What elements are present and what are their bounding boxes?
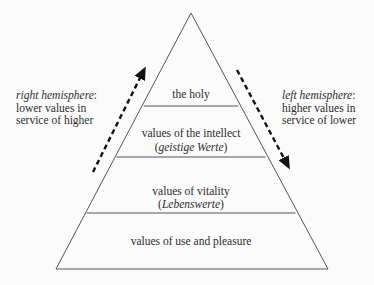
right-hemisphere-term: right hemisphere: [16, 89, 94, 101]
level-intellect-sublabel: (geistige Werte): [142, 141, 241, 154]
right-annotation-line3: service of lower: [282, 114, 356, 127]
paren-close: ): [220, 198, 224, 210]
german-term: Lebenswerte: [162, 198, 220, 210]
level-holy: the holy: [172, 88, 209, 101]
left-hemisphere-term: left hemisphere: [282, 89, 352, 101]
downward-dashed-arrow: [237, 70, 287, 164]
paren-close: ): [224, 141, 228, 153]
level-holy-label: the holy: [172, 88, 209, 100]
left-annotation-line3: service of higher: [16, 114, 97, 127]
left-annotation-line2: lower values in: [16, 102, 97, 115]
level-vitality-sublabel: (Lebenswerte): [152, 198, 229, 211]
level-use-pleasure-label: values of use and pleasure: [131, 235, 252, 247]
right-annotation: left hemisphere: higher values in servic…: [282, 89, 356, 127]
colon: :: [352, 89, 355, 101]
left-annotation-title: right hemisphere:: [16, 89, 97, 102]
level-intellect: values of the intellect (geistige Werte): [142, 127, 241, 154]
left-annotation: right hemisphere: lower values in servic…: [16, 89, 97, 127]
german-term: geistige Werte: [158, 141, 223, 153]
colon: :: [94, 89, 97, 101]
level-use-pleasure: values of use and pleasure: [131, 235, 252, 248]
level-vitality: values of vitality (Lebenswerte): [152, 185, 229, 211]
level-vitality-label: values of vitality: [152, 185, 229, 198]
right-annotation-title: left hemisphere:: [282, 89, 356, 102]
level-intellect-label: values of the intellect: [142, 127, 241, 140]
right-annotation-line2: higher values in: [282, 102, 356, 115]
